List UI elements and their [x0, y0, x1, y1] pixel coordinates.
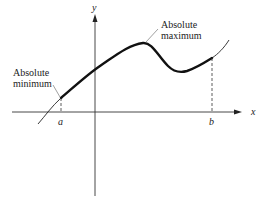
absolute-maximum-label-line1: Absolute: [161, 19, 198, 30]
absolute-maximum-label-line2: maximum: [161, 30, 202, 41]
point-b-label: b: [209, 116, 214, 127]
curve-extension-right: [212, 40, 229, 58]
point-a-label: a: [58, 116, 63, 127]
min-leader-line: [53, 85, 60, 97]
function-curve: [61, 43, 212, 98]
x-axis-label: x: [250, 106, 256, 117]
absolute-minimum-label-line2: minimum: [13, 78, 52, 89]
absolute-minimum-label-line1: Absolute: [13, 67, 50, 78]
extrema-diagram: y x a b Absolute minimum Absolute maximu…: [0, 0, 262, 204]
x-axis-arrow-icon: [234, 110, 242, 115]
max-leader-line: [146, 29, 158, 42]
y-axis-arrow-icon: [93, 14, 98, 22]
y-axis-label: y: [91, 2, 97, 13]
y-axis: [93, 14, 98, 196]
